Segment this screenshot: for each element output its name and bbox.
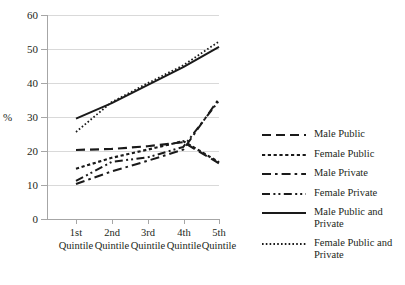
series-line-male-public-and-private xyxy=(76,47,219,119)
legend-item-female-public-and-private: Female Public and Private xyxy=(262,237,402,261)
chart-container: 60 50 40 30 20 10 0 % 1st Quintile 2nd Q… xyxy=(0,0,405,285)
legend-swatch-male-public xyxy=(262,128,306,141)
chart-legend: Male Public Female Public Male Private F… xyxy=(262,128,402,267)
legend-label-female-public: Female Public xyxy=(314,148,374,160)
series-line-female-public-and-private xyxy=(76,42,219,132)
legend-label-female-private: Female Private xyxy=(314,187,377,199)
legend-swatch-male-public-and-private xyxy=(262,206,306,219)
legend-swatch-female-public-and-private xyxy=(262,237,306,250)
series-line-male-private xyxy=(76,99,219,184)
legend-item-male-public: Male Public xyxy=(262,128,402,141)
legend-label-female-public-and-private: Female Public and Private xyxy=(314,237,392,261)
legend-swatch-female-private xyxy=(262,187,306,200)
legend-item-female-private: Female Private xyxy=(262,187,402,200)
legend-swatch-male-private xyxy=(262,167,306,180)
legend-swatch-female-public xyxy=(262,148,306,161)
series-line-female-private xyxy=(76,101,219,181)
legend-label-male-public-and-private: Male Public and Private xyxy=(314,206,383,230)
legend-item-male-private: Male Private xyxy=(262,167,402,180)
legend-item-female-public: Female Public xyxy=(262,148,402,161)
legend-label-male-private: Male Private xyxy=(314,167,368,179)
legend-label-male-public: Male Public xyxy=(314,128,365,140)
legend-item-male-public-and-private: Male Public and Private xyxy=(262,206,402,230)
series-line-male-public xyxy=(76,142,219,163)
